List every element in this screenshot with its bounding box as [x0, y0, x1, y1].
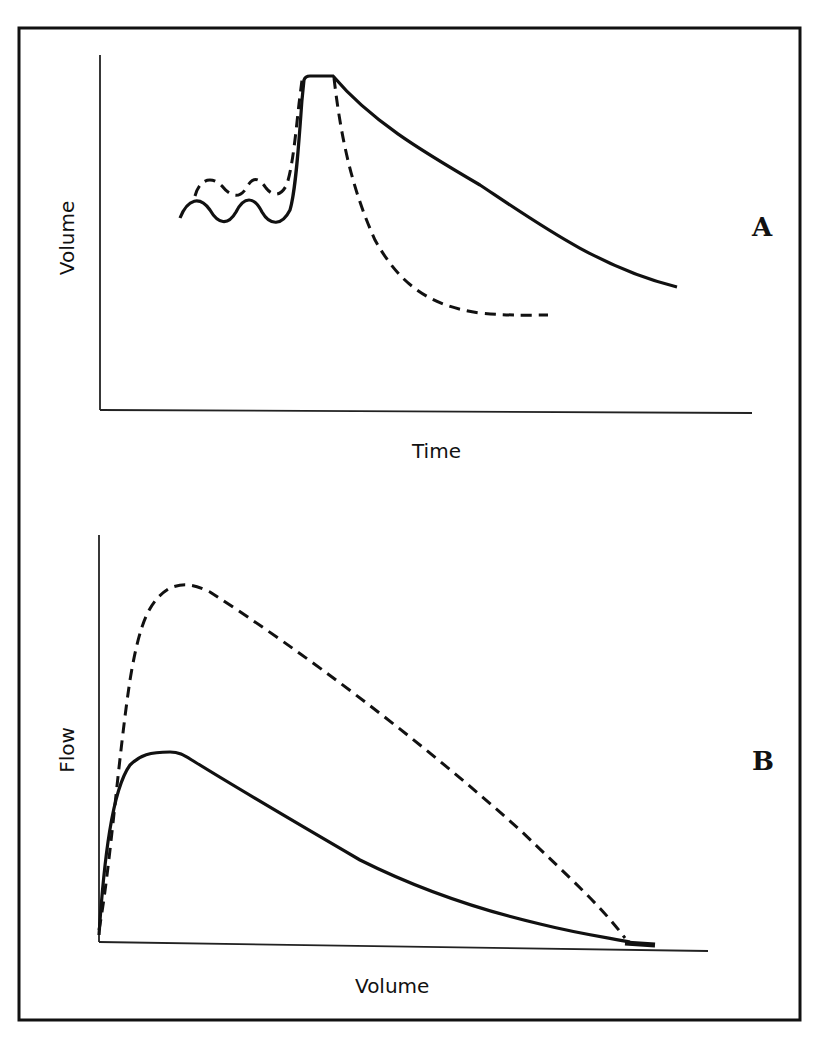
panel-a-x-label: Time [411, 439, 461, 463]
panel-a-dashed-decay [334, 78, 548, 315]
panel-b-dashed-curve [99, 585, 625, 938]
panel-b-y-label: Flow [55, 727, 79, 773]
panel-b-endpoint-mark [625, 943, 655, 945]
panel-a-solid-curve [180, 76, 677, 287]
panel-b-label: B [752, 746, 774, 776]
figure-frame [19, 28, 800, 1020]
panel-a: A Time Volume [55, 55, 773, 463]
panel-b: B Volume Flow [55, 535, 774, 998]
panel-b-solid-curve [99, 752, 630, 942]
panel-a-label: A [751, 212, 773, 242]
panel-a-y-label: Volume [55, 201, 79, 275]
panel-a-x-axis [100, 410, 752, 413]
panel-a-dashed-curve [195, 77, 304, 196]
figure: A Time Volume B Volume Flow [0, 0, 821, 1048]
panel-b-x-label: Volume [355, 974, 429, 998]
panel-b-x-axis [99, 942, 708, 951]
